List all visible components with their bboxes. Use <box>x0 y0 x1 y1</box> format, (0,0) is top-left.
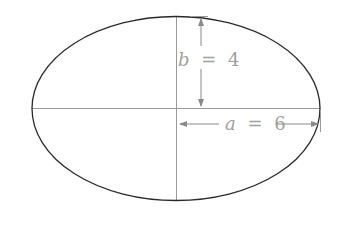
a-label: a = 6 <box>225 113 286 134</box>
a-value: 6 <box>274 113 285 134</box>
a-equals: = <box>247 113 262 134</box>
b-variable: b <box>178 49 190 70</box>
b-label: b = 4 <box>178 49 240 70</box>
b-value: 4 <box>228 49 239 70</box>
diagram-canvas: b = 4 a = 6 <box>0 0 343 227</box>
a-variable: a <box>225 113 236 134</box>
b-equals: = <box>201 49 216 70</box>
ellipse-diagram: b = 4 a = 6 <box>0 0 343 227</box>
